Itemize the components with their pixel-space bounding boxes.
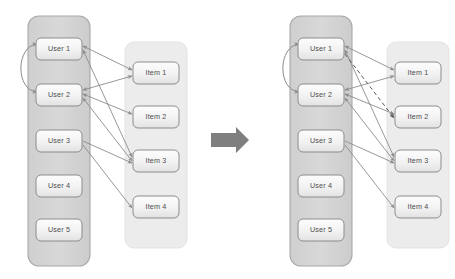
item-node-4[interactable]: Item 4 [133,196,179,218]
item-node-1[interactable]: Item 1 [395,62,441,84]
user-node-label: User 1 [310,44,332,53]
figure-canvas: User 1 User 2 User 3 User 4 User 5 It [0,0,455,279]
item-node-3[interactable]: Item 3 [133,150,179,172]
user-node-label: User 5 [48,225,70,234]
before-state-diagram: User 1 User 2 User 3 User 4 User 5 It [21,16,187,266]
item-node-1[interactable]: Item 1 [133,62,179,84]
item-node-label: Item 1 [408,68,429,77]
user-node-label: User 5 [310,225,332,234]
item-node-2[interactable]: Item 2 [395,106,441,128]
user-node-label: User 3 [48,136,70,145]
user-node-label: User 1 [48,44,70,53]
item-node-2[interactable]: Item 2 [133,106,179,128]
item-node-label: Item 3 [146,156,167,165]
user-node-3[interactable]: User 3 [298,130,344,152]
item-node-4[interactable]: Item 4 [395,196,441,218]
after-state-diagram: User 1 User 2 User 3 User 4 User 5 Item … [283,16,449,266]
item-node-label: Item 4 [146,202,167,211]
user-node-4[interactable]: User 4 [298,175,344,197]
user-node-5[interactable]: User 5 [298,219,344,241]
item-node-3[interactable]: Item 3 [395,150,441,172]
item-node-label: Item 3 [408,156,429,165]
user-node-1[interactable]: User 1 [36,38,82,60]
user-node-1[interactable]: User 1 [298,38,344,60]
item-node-label: Item 2 [408,112,429,121]
user-node-label: User 2 [48,90,70,99]
user-node-label: User 4 [310,181,332,190]
user-node-label: User 3 [310,136,332,145]
right-block-arrow-icon [211,127,249,153]
item-node-label: Item 4 [408,202,429,211]
user-node-2[interactable]: User 2 [36,84,82,106]
item-node-label: Item 1 [146,68,167,77]
user-node-label: User 4 [48,181,70,190]
diagram-svg: User 1 User 2 User 3 User 4 User 5 It [0,0,455,279]
user-node-label: User 2 [310,90,332,99]
user-node-3[interactable]: User 3 [36,130,82,152]
user-node-4[interactable]: User 4 [36,175,82,197]
user-node-5[interactable]: User 5 [36,219,82,241]
user-node-2[interactable]: User 2 [298,84,344,106]
item-node-label: Item 2 [146,112,167,121]
